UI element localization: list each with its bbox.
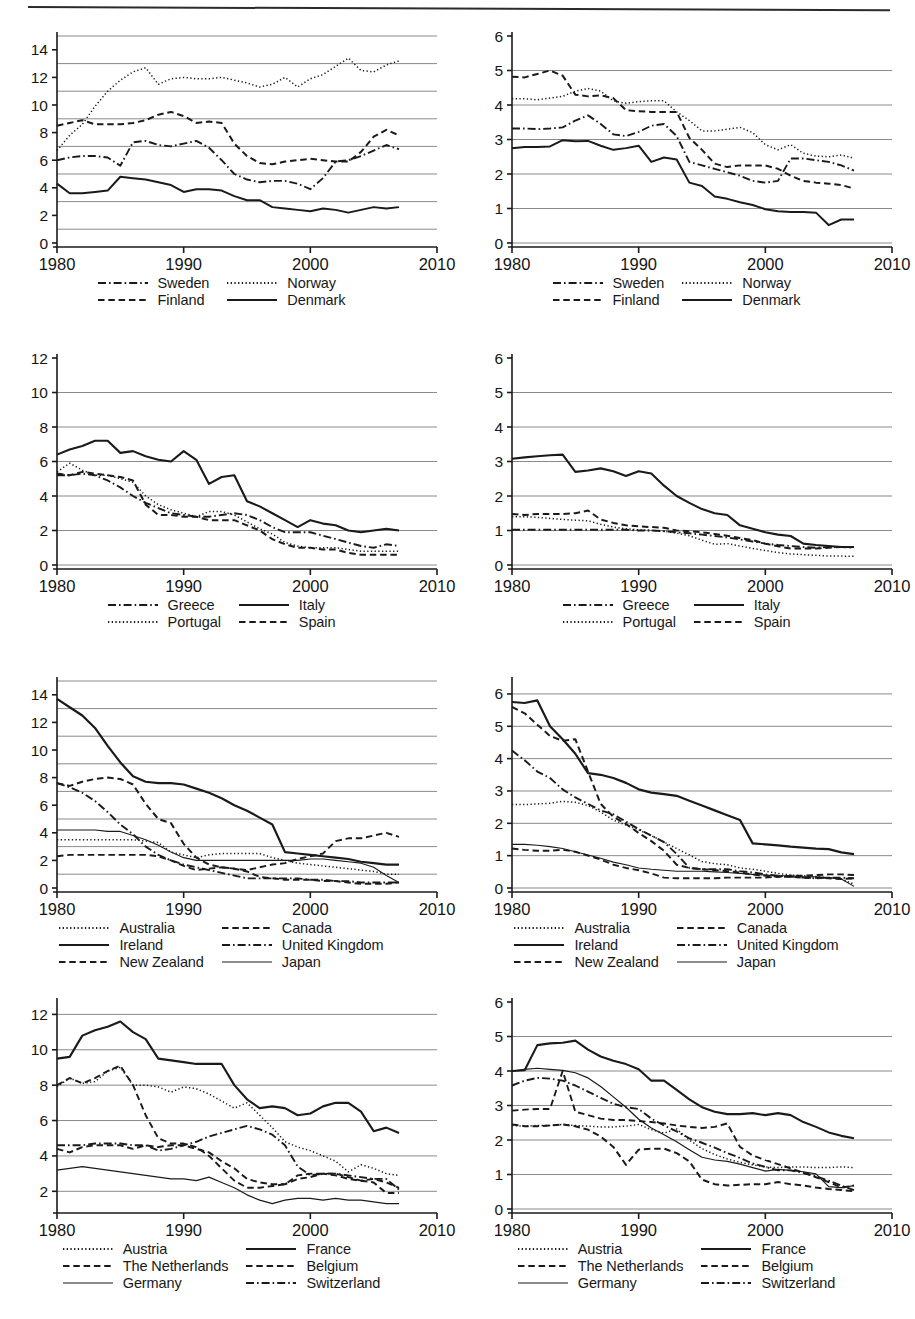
legend-label-spain: Spain	[754, 614, 807, 631]
legend-key-dashed	[675, 922, 729, 934]
y-tick-label: 1	[494, 1166, 503, 1183]
y-tick-label: 14	[31, 686, 49, 703]
legend-label-germany: Germany	[578, 1275, 700, 1292]
legend-row: PortugalSpain	[106, 614, 352, 631]
x-axis: 1980199020002010year	[39, 247, 456, 273]
legend-key-dotted	[106, 616, 160, 628]
x-tick-label: 1980	[494, 577, 531, 595]
legend-key-solid	[57, 939, 111, 951]
y-tick-label: 0	[494, 235, 503, 252]
legend-swatch	[699, 1258, 761, 1275]
legend-nordic: SwedenNorwayFinlandDenmark	[0, 273, 457, 309]
legend-swatch	[561, 614, 623, 631]
x-axis: 1980199020002010year	[39, 1213, 456, 1239]
x-axis: 1980199020002010year	[494, 247, 911, 273]
gridlines	[512, 71, 892, 244]
y-tick-label: 5	[494, 718, 503, 735]
y-axis: 024681012	[31, 350, 57, 574]
legend-label-italy: Italy	[299, 597, 352, 614]
legend-row: IrelandUnited Kingdom	[57, 937, 399, 954]
series-line-denmark	[57, 177, 399, 213]
legend-label-australia: Australia	[119, 920, 219, 937]
legend-label-norway: Norway	[742, 275, 816, 292]
series-line-the-netherlands	[57, 1066, 399, 1188]
chart-panel-south-right: 01234561980199020002010yearGreeceItalyPo…	[455, 340, 912, 631]
y-tick-label: 1	[494, 522, 503, 539]
legend-key-dashdot	[244, 1277, 298, 1289]
gridlines	[57, 393, 437, 566]
plot-area-anglo-right: 01234561980199020002010year	[455, 663, 912, 918]
plot-area-south-left: 0246810121980199020002010year	[0, 340, 457, 595]
y-tick-label: 10	[31, 384, 49, 401]
series-group	[512, 71, 854, 226]
series-line-greece	[57, 474, 399, 548]
legend-label-japan: Japan	[737, 954, 855, 971]
legend-row: AustriaFrance	[516, 1241, 852, 1258]
y-tick-label: 4	[39, 488, 48, 505]
y-tick-label: 2	[39, 522, 48, 539]
series-line-australia	[57, 840, 399, 875]
legend-swatch	[57, 954, 119, 971]
legend-label-belgium: Belgium	[761, 1258, 851, 1275]
legend-label-greece: Greece	[623, 597, 692, 614]
chart-cont-right: 01234561980199020002010year	[455, 984, 912, 1239]
x-tick-label: 2000	[292, 1221, 329, 1239]
legend-label-canada: Canada	[282, 920, 400, 937]
legend-swatch	[680, 275, 742, 292]
legend-key-dashed	[57, 956, 111, 968]
x-axis: 1980199020002010year	[39, 569, 456, 595]
x-axis: 1980199020002010year	[494, 892, 911, 918]
legend-label-canada: Canada	[737, 920, 855, 937]
y-tick-label: 2	[39, 852, 48, 869]
legend-key-dashdot	[106, 599, 160, 611]
legend-swatch	[237, 614, 299, 631]
y-tick-label: 2	[39, 207, 48, 224]
chart-nordic-left: 024681012141980199020002010year	[0, 18, 457, 273]
legend-label-france: France	[761, 1241, 851, 1258]
y-axis: 02468101214	[31, 32, 57, 252]
legend-key-solid	[244, 1243, 298, 1255]
y-tick-label: 2	[494, 166, 503, 183]
x-tick-label: 2000	[747, 1221, 784, 1239]
legend-swatch	[699, 1275, 761, 1292]
y-tick-label: 0	[39, 557, 48, 574]
legend-label-the-netherlands: The Netherlands	[578, 1258, 700, 1275]
legend-label-italy: Italy	[754, 597, 807, 614]
y-tick-label: 3	[494, 782, 503, 799]
y-tick-label: 0	[39, 235, 48, 252]
legend-row: SwedenNorway	[551, 275, 817, 292]
x-tick-label: 1990	[620, 577, 657, 595]
legend-label-greece: Greece	[168, 597, 237, 614]
legend-key-dotted	[61, 1243, 115, 1255]
x-tick-label: 2010	[419, 900, 456, 918]
legend-swatch	[516, 1258, 578, 1275]
legend-key-dotted	[561, 616, 615, 628]
legend-row: The NetherlandsBelgium	[516, 1258, 852, 1275]
series-line-italy	[57, 441, 399, 532]
y-tick-label: 4	[494, 97, 503, 114]
legend-label-united-kingdom: United Kingdom	[737, 937, 855, 954]
legend-key-dashdot	[561, 599, 615, 611]
y-tick-label: 6	[39, 453, 48, 470]
y-tick-label: 14	[31, 41, 49, 58]
legend-key-dashed	[692, 616, 746, 628]
x-tick-label: 2000	[292, 577, 329, 595]
chart-cont-left: 246810121980199020002010year	[0, 984, 457, 1239]
chart-anglo-left: 024681012141980199020002010year	[0, 663, 457, 918]
legend-key-solid	[680, 294, 734, 306]
y-tick-label: 0	[494, 557, 503, 574]
x-tick-label: 1990	[165, 577, 202, 595]
legend-key-dotted	[512, 922, 566, 934]
x-axis: 1980199020002010year	[494, 1213, 911, 1239]
x-tick-label: 2010	[874, 1221, 911, 1239]
legend-label-austria: Austria	[123, 1241, 245, 1258]
x-tick-label: 1990	[620, 1221, 657, 1239]
legend-key-dotted	[516, 1243, 570, 1255]
x-tick-label: 1980	[39, 255, 76, 273]
legend-swatch	[225, 292, 287, 309]
x-tick-label: 1990	[165, 1221, 202, 1239]
legend-swatch	[675, 937, 737, 954]
legend-label-the-netherlands: The Netherlands	[123, 1258, 245, 1275]
legend-swatch	[561, 597, 623, 614]
legend-label-spain: Spain	[299, 614, 352, 631]
